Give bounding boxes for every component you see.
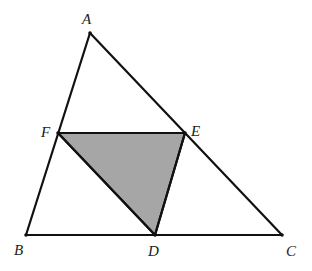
shaded-triangle-def [58, 133, 185, 235]
label-f: F [40, 124, 51, 140]
label-b: B [14, 242, 23, 258]
label-c: C [286, 243, 297, 259]
vertex-c [280, 233, 284, 237]
label-e: E [190, 123, 200, 139]
vertex-f [56, 131, 60, 135]
vertex-b [24, 233, 28, 237]
vertex-a [88, 31, 92, 35]
vertex-d [153, 233, 157, 237]
vertex-e [183, 131, 187, 135]
label-d: D [147, 243, 159, 259]
triangle-diagram: A B C D E F [0, 0, 312, 271]
label-a: A [81, 11, 92, 27]
